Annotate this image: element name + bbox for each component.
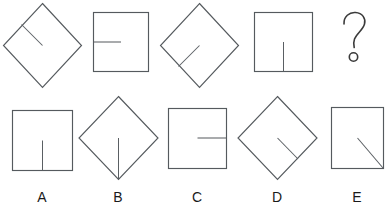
sequence-item-4 [255, 13, 313, 72]
option-d-figure[interactable] [238, 97, 317, 180]
option-label-e: E [345, 189, 369, 205]
line-segment [278, 138, 299, 159]
line-segment [358, 138, 384, 168]
puzzle-figure [0, 0, 390, 213]
option-e-figure[interactable] [332, 108, 384, 169]
option-label-d: D [265, 189, 289, 205]
sequence-item-5-question [344, 12, 365, 61]
sequence-item-2 [94, 13, 149, 72]
sequence-item-3 [161, 4, 239, 88]
option-label-b: B [106, 189, 130, 205]
option-label-a: A [30, 189, 54, 205]
line-segment [22, 25, 43, 46]
option-a-figure[interactable] [13, 111, 73, 171]
line-segment [179, 46, 200, 67]
question-mark-dot-icon [349, 53, 357, 61]
question-mark-icon [344, 12, 365, 47]
option-label-c: C [185, 189, 209, 205]
option-c-figure[interactable] [169, 109, 227, 169]
puzzle-canvas: A B C D E [0, 0, 390, 213]
option-b-figure[interactable] [79, 97, 158, 180]
sequence-item-1 [4, 4, 82, 88]
